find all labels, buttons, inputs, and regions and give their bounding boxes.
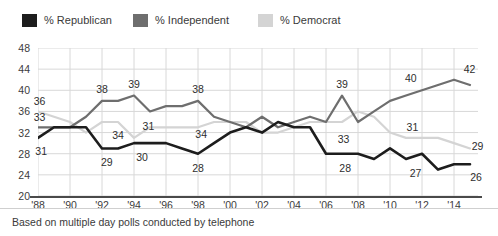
chart-area: 3633313839343129303834283933284031274229… [0, 38, 498, 204]
legend-swatch [258, 14, 273, 27]
x-axis-tick-label: '08 [345, 200, 371, 211]
x-axis-tick-label: '06 [313, 200, 339, 211]
data-point-label: 36 [34, 96, 46, 107]
data-point-label: 28 [339, 162, 351, 173]
data-point-label: 38 [192, 83, 204, 94]
chart-legend: % Republican% Independent% Democrat [0, 0, 498, 38]
x-axis-tick-label: '96 [153, 200, 179, 211]
y-axis-tick-label: 44 [8, 64, 30, 75]
data-point-label: 39 [128, 78, 140, 89]
data-point-label: 27 [410, 168, 422, 179]
x-axis-tick-label: '04 [281, 200, 307, 211]
y-axis-labels: 2024283236404448 [6, 38, 30, 204]
data-point-label: 42 [464, 63, 476, 74]
legend-swatch [133, 14, 148, 27]
x-axis-tick-label: '90 [57, 200, 83, 211]
data-point-label: 28 [192, 162, 204, 173]
data-point-label: 26 [470, 172, 482, 183]
legend-item[interactable]: % Republican [22, 14, 112, 27]
x-axis-tick-label: '14 [441, 200, 467, 211]
y-axis-tick-label: 28 [8, 148, 30, 159]
legend-item[interactable]: % Democrat [258, 14, 341, 27]
legend-swatch [22, 14, 37, 27]
y-axis-tick-label: 32 [8, 127, 30, 138]
y-axis-tick-label: 40 [8, 85, 30, 96]
data-point-label: 33 [338, 134, 350, 145]
x-axis-tick-label: '88 [25, 200, 51, 211]
data-point-label: 33 [34, 112, 46, 123]
data-point-label: 31 [35, 145, 47, 156]
x-axis-tick-label: '94 [121, 200, 147, 211]
legend-item[interactable]: % Independent [133, 14, 229, 27]
x-axis-tick-label: '10 [377, 200, 403, 211]
legend-label: % Republican [44, 14, 112, 27]
footer-divider [0, 208, 498, 209]
x-axis-tick-label: '02 [249, 200, 275, 211]
y-axis-tick-label: 36 [8, 106, 30, 117]
x-axis-tick-label: '98 [185, 200, 211, 211]
data-point-label: 34 [195, 129, 207, 140]
data-point-label: 39 [336, 78, 348, 89]
chart-page: % Republican% Independent% Democrat 3633… [0, 0, 498, 236]
data-point-label: 31 [407, 121, 419, 132]
y-axis-tick-label: 48 [8, 43, 30, 54]
x-axis-line [30, 196, 482, 198]
data-point-label: 40 [405, 73, 417, 84]
data-point-label: 34 [112, 130, 124, 141]
data-point-label: 38 [96, 83, 108, 94]
legend-label: % Independent [155, 14, 229, 27]
data-point-label: 29 [472, 141, 484, 152]
footer-note: Based on multiple day polls conducted by… [12, 216, 254, 229]
data-point-label: 30 [136, 152, 148, 163]
x-axis-tick-label: '92 [89, 200, 115, 211]
data-point-label: 31 [143, 120, 155, 131]
x-axis-tick-label: '12 [409, 200, 435, 211]
plot-area: 3633313839343129303834283933284031274229… [38, 48, 478, 196]
x-axis-tick-label: '00 [217, 200, 243, 211]
data-point-label: 29 [101, 157, 113, 168]
y-axis-tick-label: 24 [8, 169, 30, 180]
legend-label: % Democrat [280, 14, 341, 27]
